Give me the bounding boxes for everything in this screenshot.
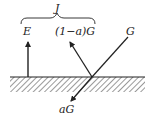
surface <box>10 77 145 92</box>
incident-ray <box>92 37 128 77</box>
label-J: J <box>53 2 60 15</box>
surface-hatching <box>10 77 145 92</box>
label-incident-G: G <box>126 25 135 38</box>
label-E: E <box>22 25 31 38</box>
radiosity-diagram: J E (1−a)G G aG <box>0 0 150 119</box>
reflected-arrow <box>70 42 92 77</box>
label-absorbed: aG <box>59 103 75 116</box>
label-reflected: (1−a)G <box>55 25 95 38</box>
